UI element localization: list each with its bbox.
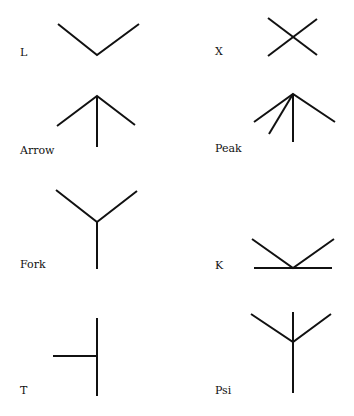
junction-diagrams [0,0,354,416]
peak-junction-icon [254,94,335,142]
arrow-junction-icon [57,96,135,147]
fork-junction-icon [56,190,137,269]
t-junction-icon [53,318,97,396]
psi-junction-icon [251,312,331,393]
k-junction-icon [252,239,334,268]
x-junction-icon [268,18,317,56]
l-junction-icon [58,24,139,55]
